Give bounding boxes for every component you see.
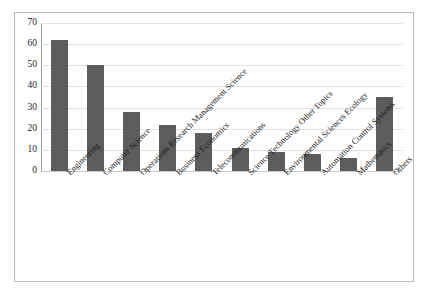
y-axis-tick-labels: 010203040506070: [15, 13, 39, 181]
y-tick-label-30: 30: [28, 103, 38, 113]
x-axis-category-labels: EngineeringComputer ScienceOperations Re…: [41, 173, 403, 281]
y-tick-label-20: 20: [28, 124, 38, 134]
y-tick-label-0: 0: [32, 166, 37, 176]
y-tick-label-60: 60: [28, 39, 38, 49]
bar[interactable]: [51, 40, 68, 171]
y-tick-label-40: 40: [28, 82, 38, 92]
bar-chart-figure: 010203040506070 EngineeringComputer Scie…: [14, 12, 414, 282]
y-tick-label-10: 10: [28, 145, 38, 155]
y-tick-label-70: 70: [28, 18, 38, 28]
y-tick-label-50: 50: [28, 61, 38, 71]
